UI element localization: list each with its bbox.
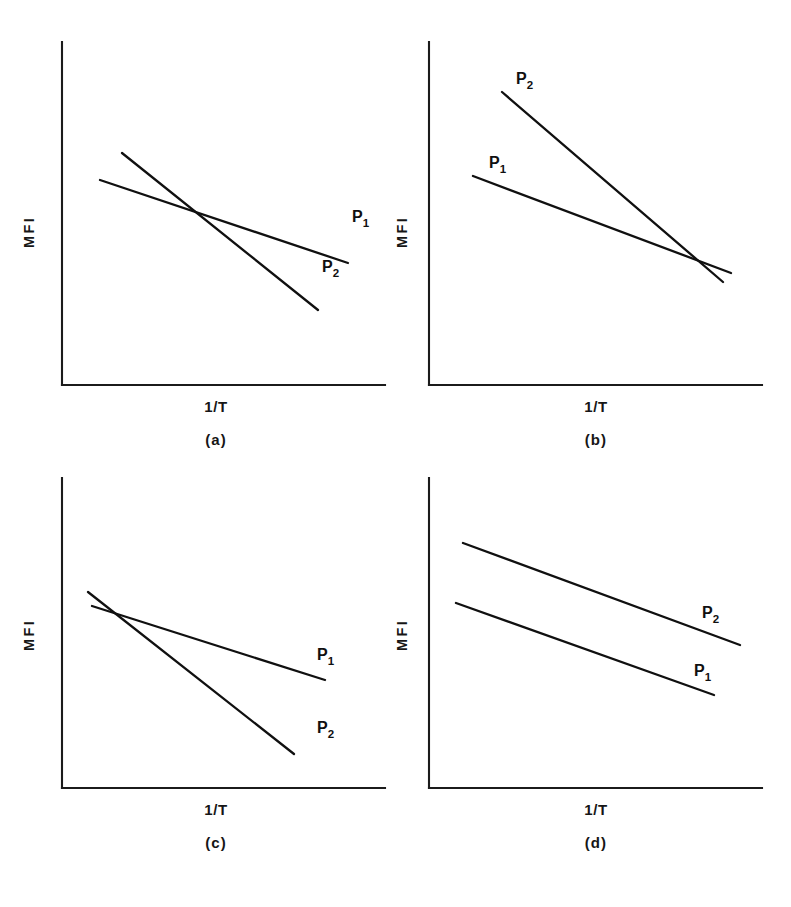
panel-b-plot: MFI 1/T (b) P1 P2	[396, 0, 791, 455]
panel-a-series-p2-label: P2	[322, 258, 339, 279]
bottom-edge-artifact	[0, 893, 791, 905]
panel-c-series-p1-label: P1	[317, 646, 335, 667]
panel-c-caption: (c)	[205, 834, 227, 851]
panel-b-series-p1-line	[473, 176, 731, 273]
figure-root: MFI 1/T (a) P1 P2 MFI 1/T (b)	[0, 0, 791, 907]
panel-d: MFI 1/T (d) P1 P2	[396, 455, 791, 907]
panel-a-series-p1-line	[100, 180, 348, 263]
panel-a-plot: MFI 1/T (a) P1 P2	[0, 0, 396, 455]
panel-c-series-p2-line	[88, 592, 294, 754]
panel-a-caption: (a)	[205, 431, 227, 448]
panel-a-y-axis-label: MFI	[21, 216, 37, 248]
panel-a-series-p2-line	[122, 153, 318, 310]
panel-d-series-p1-line	[456, 603, 714, 695]
panel-c-series-p1-line	[92, 606, 325, 680]
panel-d-caption: (d)	[585, 834, 607, 851]
panel-d-x-axis-label: 1/T	[584, 801, 607, 818]
panel-c-y-axis-label: MFI	[21, 619, 37, 651]
panel-a-x-axis-label: 1/T	[204, 398, 227, 415]
panel-grid: MFI 1/T (a) P1 P2 MFI 1/T (b)	[0, 0, 791, 907]
panel-a: MFI 1/T (a) P1 P2	[0, 0, 396, 455]
panel-b-series-p2-label: P2	[516, 70, 533, 91]
panel-d-series-p2-label: P2	[702, 604, 719, 625]
panel-d-y-axis-label: MFI	[394, 619, 410, 651]
panel-c-x-axis-label: 1/T	[204, 801, 227, 818]
panel-b: MFI 1/T (b) P1 P2	[396, 0, 791, 455]
panel-b-x-axis-label: 1/T	[584, 398, 607, 415]
panel-a-series-p1-label: P1	[352, 208, 370, 229]
panel-b-caption: (b)	[585, 431, 607, 448]
panel-b-y-axis-label: MFI	[394, 216, 410, 248]
panel-d-series-p2-line	[463, 543, 740, 645]
panel-b-series-p2-line	[502, 92, 723, 282]
panel-d-plot: MFI 1/T (d) P1 P2	[396, 455, 791, 907]
panel-c-series-p2-label: P2	[317, 719, 334, 740]
panel-b-series-p1-label: P1	[489, 154, 507, 175]
panel-d-series-p1-label: P1	[694, 662, 712, 683]
panel-c: MFI 1/T (c) P1 P2	[0, 455, 396, 907]
panel-c-plot: MFI 1/T (c) P1 P2	[0, 455, 396, 907]
